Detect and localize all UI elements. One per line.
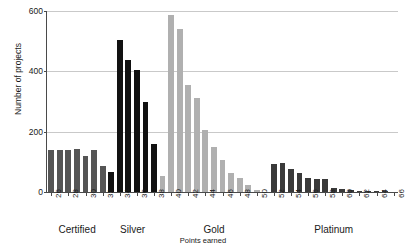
x-tick-mark bbox=[274, 193, 275, 196]
bar bbox=[65, 150, 71, 192]
bar bbox=[168, 15, 174, 192]
x-tick-label: 54 bbox=[294, 189, 303, 198]
x-tick-mark bbox=[205, 193, 206, 196]
y-tick-mark bbox=[44, 132, 47, 133]
y-tick-mark bbox=[44, 192, 47, 193]
bar bbox=[100, 166, 106, 192]
bar bbox=[125, 60, 131, 192]
x-tick-label: 66 bbox=[397, 189, 406, 198]
bar bbox=[271, 164, 277, 192]
bar bbox=[83, 156, 89, 192]
bar bbox=[237, 178, 243, 192]
bar bbox=[48, 150, 54, 192]
bar bbox=[117, 40, 123, 192]
bar bbox=[143, 102, 149, 192]
x-tick-mark bbox=[377, 193, 378, 196]
x-tick-label: 32 bbox=[106, 189, 115, 198]
x-tick-label: 30 bbox=[89, 189, 98, 198]
x-tick-label: 48 bbox=[243, 189, 252, 198]
x-tick-mark bbox=[342, 193, 343, 196]
x-tick-label: 40 bbox=[174, 189, 183, 198]
bar bbox=[177, 29, 183, 192]
x-tick-mark bbox=[325, 193, 326, 196]
y-tick-mark bbox=[44, 71, 47, 72]
bar bbox=[211, 147, 217, 192]
bar bbox=[91, 150, 97, 192]
x-tick-mark bbox=[223, 193, 224, 196]
x-tick-mark bbox=[137, 193, 138, 196]
x-tick-mark bbox=[308, 193, 309, 196]
x-tick-mark bbox=[240, 193, 241, 196]
bar bbox=[57, 150, 63, 192]
group-label-gold: Gold bbox=[203, 224, 224, 235]
bar bbox=[254, 190, 260, 192]
bar bbox=[134, 70, 140, 192]
x-tick-label: 44 bbox=[208, 189, 217, 198]
y-tick-label: 0 bbox=[3, 187, 43, 197]
x-tick-mark bbox=[120, 193, 121, 196]
x-tick-label: 42 bbox=[191, 189, 200, 198]
x-tick-label: 28 bbox=[71, 189, 80, 198]
bar bbox=[194, 98, 200, 192]
bar bbox=[74, 149, 80, 192]
bar bbox=[220, 160, 226, 192]
x-tick-label: 52 bbox=[277, 189, 286, 198]
group-label-platinum: Platinum bbox=[314, 224, 353, 235]
x-tick-mark bbox=[86, 193, 87, 196]
x-tick-mark bbox=[257, 193, 258, 196]
y-tick-label: 400 bbox=[3, 66, 43, 76]
x-tick-mark bbox=[188, 193, 189, 196]
bar bbox=[185, 85, 191, 192]
bar bbox=[288, 169, 294, 192]
y-tick-mark bbox=[44, 11, 47, 12]
group-label-certified: Certified bbox=[58, 224, 95, 235]
x-tick-mark bbox=[359, 193, 360, 196]
x-tick-label: 50 bbox=[260, 189, 269, 198]
x-tick-label: 64 bbox=[380, 189, 389, 198]
x-tick-mark bbox=[103, 193, 104, 196]
bar-series-container bbox=[47, 11, 398, 192]
x-tick-mark bbox=[394, 193, 395, 196]
plot-area bbox=[47, 11, 398, 192]
bar bbox=[151, 144, 157, 192]
x-tick-mark bbox=[68, 193, 69, 196]
x-tick-label: 60 bbox=[345, 189, 354, 198]
bar bbox=[202, 130, 208, 192]
x-tick-mark bbox=[154, 193, 155, 196]
x-tick-mark bbox=[171, 193, 172, 196]
x-tick-label: 46 bbox=[226, 189, 235, 198]
x-tick-label: 26 bbox=[54, 189, 63, 198]
y-tick-label: 600 bbox=[3, 6, 43, 16]
bar bbox=[280, 163, 286, 192]
x-tick-label: 36 bbox=[140, 189, 149, 198]
x-tick-label: 34 bbox=[123, 189, 132, 198]
chart-figure: Number of projects 0200400600 2628303234… bbox=[0, 0, 406, 251]
x-tick-label: 62 bbox=[362, 189, 371, 198]
x-tick-label: 38 bbox=[157, 189, 166, 198]
x-tick-mark bbox=[51, 193, 52, 196]
bar bbox=[374, 191, 380, 192]
y-tick-label: 200 bbox=[3, 127, 43, 137]
x-tick-label: 58 bbox=[328, 189, 337, 198]
x-axis-title: Points earned bbox=[0, 236, 406, 245]
x-tick-mark bbox=[291, 193, 292, 196]
group-label-silver: Silver bbox=[120, 224, 145, 235]
x-tick-label: 56 bbox=[311, 189, 320, 198]
